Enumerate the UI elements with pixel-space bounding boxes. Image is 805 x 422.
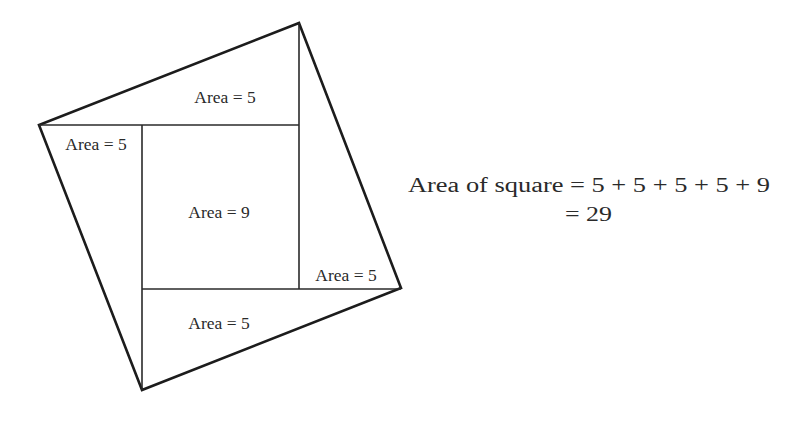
equation-line-2: = 29 (565, 203, 612, 225)
label-bottom-triangle: Area = 5 (188, 313, 250, 333)
label-top-triangle: Area = 5 (194, 87, 256, 107)
label-right-triangle: Area = 5 (315, 265, 377, 285)
label-left-triangle: Area = 5 (65, 134, 127, 154)
equation-line-1: Area of square = 5 + 5 + 5 + 5 + 9 (408, 174, 770, 197)
label-center-square: Area = 9 (188, 202, 250, 222)
area-diagram: Area = 5 Area = 5 Area = 9 Area = 5 Area… (0, 0, 805, 422)
